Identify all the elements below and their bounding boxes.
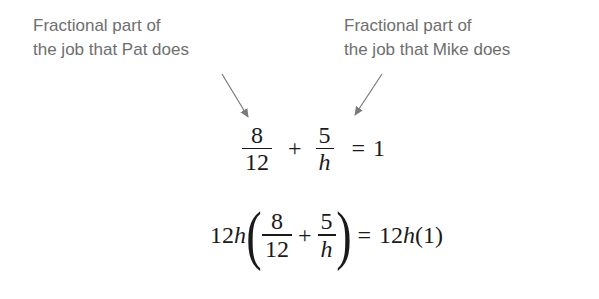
equation-2: 12 h ( 8 12 + 5 h ) = 12 h (1) — [210, 205, 443, 265]
arrow-pat-icon — [222, 74, 248, 117]
arrow-mike-icon — [355, 74, 382, 115]
equals-sign: = — [352, 135, 366, 162]
rhs-parenthesized-value: (1) — [415, 222, 443, 249]
plus-sign: + — [288, 135, 302, 162]
fraction-8-over-12: 8 12 — [242, 122, 272, 175]
numerator: 5 — [318, 208, 336, 234]
rhs-variable: h — [403, 222, 415, 249]
multiplier-variable: h — [234, 222, 246, 249]
rhs-value: 1 — [373, 135, 385, 162]
denominator: 12 — [262, 236, 292, 262]
fraction-5-over-h: 5 h — [316, 122, 334, 175]
numerator: 8 — [268, 208, 286, 234]
numerator: 8 — [248, 122, 266, 148]
close-paren: ) — [336, 205, 351, 265]
rhs-coefficient: 12 — [379, 222, 403, 249]
fraction-5-over-h: 5 h — [318, 208, 336, 261]
equals-sign: = — [358, 222, 372, 249]
plus-sign: + — [298, 222, 312, 249]
denominator: h — [316, 149, 334, 175]
multiplier-coefficient: 12 — [210, 222, 234, 249]
equation-1: 8 12 + 5 h = 1 — [242, 122, 385, 175]
denominator: h — [318, 236, 336, 262]
fraction-8-over-12: 8 12 — [262, 208, 292, 261]
numerator: 5 — [316, 122, 334, 148]
open-paren: ( — [246, 205, 261, 265]
denominator: 12 — [242, 149, 272, 175]
